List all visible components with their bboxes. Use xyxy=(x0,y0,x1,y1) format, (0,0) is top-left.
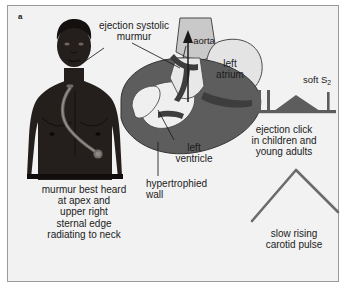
hypertrophied-line-1: hypertrophied xyxy=(146,178,207,189)
soft-s2-subscript: 2 xyxy=(327,79,331,86)
carotid-line-1: slow rising xyxy=(271,228,318,239)
hypertrophied-line-2: wall xyxy=(146,189,163,200)
left-ventricle-line-2: ventricle xyxy=(175,153,212,164)
ejection-click-line-1: ejection click xyxy=(256,124,313,135)
carotid-line-2: carotid pulse xyxy=(266,239,323,250)
soft-s2-prefix: soft S xyxy=(303,74,327,85)
best-heard-line-5: radiating to neck xyxy=(47,229,120,240)
label-aorta: aorta xyxy=(183,36,225,47)
label-soft-s2: soft S2 xyxy=(303,75,348,86)
patient-torso xyxy=(27,19,123,180)
best-heard-line-1: murmur best heard xyxy=(42,184,126,195)
phonocardiogram-trace xyxy=(246,90,336,113)
caption-murmur-best-heard: murmur best heard at apex and upper righ… xyxy=(22,184,146,240)
best-heard-line-4: sternal edge xyxy=(56,218,111,229)
label-ejection-systolic-murmur: ejection systolic murmur xyxy=(80,20,188,42)
label-left-atrium: left atrium xyxy=(205,58,255,80)
figure-container: a ejection systolic murmur aorta left at… xyxy=(0,0,348,294)
caption-carotid-pulse: slow rising carotid pulse xyxy=(246,228,342,250)
panel-letter: a xyxy=(18,13,22,22)
murmur-line-2: murmur xyxy=(117,31,151,42)
carotid-pulse-trace xyxy=(252,170,338,221)
label-hypertrophied-wall: hypertrophied wall xyxy=(146,178,214,200)
best-heard-line-2: at apex and xyxy=(58,195,110,206)
ejection-click-line-2: in children and xyxy=(251,135,316,146)
caption-ejection-click: ejection click in children and young adu… xyxy=(222,124,346,158)
left-atrium-line-2: atrium xyxy=(216,69,244,80)
left-atrium-line-1: left xyxy=(223,58,236,69)
ejection-click-line-3: young adults xyxy=(256,146,313,157)
best-heard-line-3: upper right xyxy=(60,206,108,217)
left-ventricle-line-1: left xyxy=(187,142,200,153)
murmur-line-1: ejection systolic xyxy=(99,20,169,31)
label-left-ventricle: left ventricle xyxy=(168,142,220,164)
figure-panel: a ejection systolic murmur aorta left at… xyxy=(7,5,339,282)
